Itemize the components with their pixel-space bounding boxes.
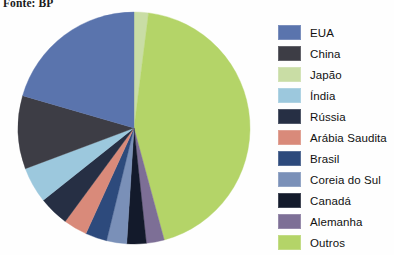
legend-swatch	[278, 151, 301, 166]
chart-legend: EUAChinaJapãoÍndiaRússiaArábia SauditaBr…	[278, 22, 394, 253]
legend-item[interactable]: EUA	[278, 22, 394, 43]
legend-label: Outros	[310, 237, 345, 249]
legend-label: Japão	[310, 69, 342, 81]
chart-page: Fonte: BP EUAChinaJapãoÍndiaRússiaArábia…	[0, 0, 394, 255]
legend-label: Rússia	[310, 111, 346, 123]
legend-swatch	[278, 46, 301, 61]
legend-swatch	[278, 214, 301, 229]
legend-item[interactable]: Arábia Saudita	[278, 127, 394, 148]
legend-label: Coreia do Sul	[310, 174, 381, 186]
legend-swatch	[278, 130, 301, 145]
legend-label: Arábia Saudita	[310, 132, 387, 144]
legend-label: Índia	[310, 90, 335, 102]
legend-item[interactable]: Brasil	[278, 148, 394, 169]
legend-label: EUA	[310, 27, 334, 39]
legend-label: Brasil	[310, 153, 339, 165]
legend-label: Alemanha	[310, 216, 363, 228]
legend-item[interactable]: Rússia	[278, 106, 394, 127]
legend-label: Canadá	[310, 195, 351, 207]
legend-item[interactable]: Índia	[278, 85, 394, 106]
legend-item[interactable]: China	[278, 43, 394, 64]
legend-swatch	[278, 109, 301, 124]
pie-chart-region	[0, 0, 260, 255]
legend-swatch	[278, 67, 301, 82]
legend-item[interactable]: Canadá	[278, 190, 394, 211]
legend-swatch	[278, 25, 301, 40]
legend-swatch	[278, 88, 301, 103]
legend-swatch	[278, 172, 301, 187]
legend-item[interactable]: Japão	[278, 64, 394, 85]
legend-item[interactable]: Alemanha	[278, 211, 394, 232]
legend-swatch	[278, 193, 301, 208]
legend-item[interactable]: Outros	[278, 232, 394, 253]
legend-item[interactable]: Coreia do Sul	[278, 169, 394, 190]
pie-chart-svg	[0, 0, 260, 255]
legend-swatch	[278, 235, 301, 250]
legend-label: China	[310, 48, 341, 60]
